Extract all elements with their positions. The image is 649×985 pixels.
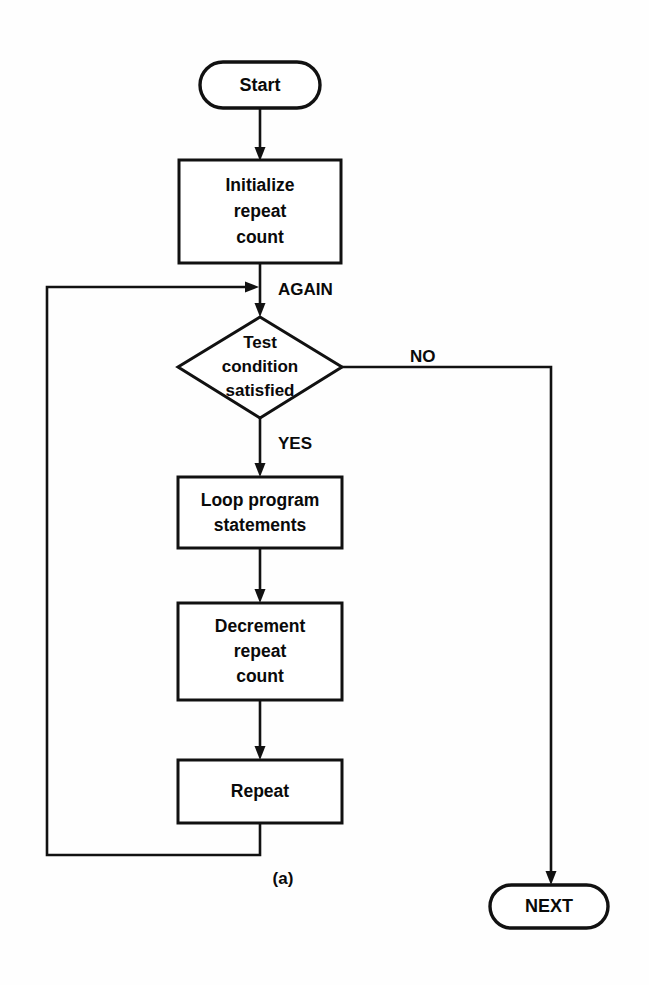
edge-decrement-to-repeat xyxy=(255,700,266,760)
figure-caption: (a) xyxy=(273,869,294,888)
decrement-label-line-3: count xyxy=(236,666,284,686)
node-repeat[interactable]: Repeat xyxy=(178,760,342,823)
node-next[interactable]: NEXT xyxy=(490,885,608,928)
node-test-condition[interactable]: Test condition satisfied xyxy=(178,317,342,418)
repeat-label: Repeat xyxy=(231,781,290,801)
test-label-line-3: satisfied xyxy=(226,381,295,400)
node-initialize[interactable]: Initialize repeat count xyxy=(179,160,341,263)
edge-initialize-to-test xyxy=(255,263,266,317)
loop-program-label-line-2: statements xyxy=(214,515,307,535)
initialize-label-line-1: Initialize xyxy=(225,175,294,195)
decrement-label-line-2: repeat xyxy=(234,641,287,661)
decrement-label-line-1: Decrement xyxy=(215,616,306,636)
node-start[interactable]: Start xyxy=(200,62,320,108)
node-decrement[interactable]: Decrement repeat count xyxy=(178,603,342,700)
start-label: Start xyxy=(239,75,280,95)
flowchart-figure: Start Initialize repeat count AGAIN Test… xyxy=(0,0,649,985)
flowchart-canvas: Start Initialize repeat count AGAIN Test… xyxy=(0,0,649,985)
next-label: NEXT xyxy=(525,896,573,916)
loop-program-label-line-1: Loop program xyxy=(201,490,320,510)
loop-program-box-shape xyxy=(178,477,342,548)
test-label-line-2: condition xyxy=(222,357,298,376)
edge-test-no-to-next xyxy=(342,367,557,885)
edge-start-to-initialize xyxy=(255,108,266,161)
edge-test-yes-to-loop xyxy=(255,418,266,477)
edge-label-no: NO xyxy=(410,347,436,366)
edge-loop-to-decrement xyxy=(255,548,266,603)
initialize-label-line-2: repeat xyxy=(234,201,287,221)
initialize-label-line-3: count xyxy=(236,227,284,247)
edge-label-yes: YES xyxy=(278,434,312,453)
edge-label-again: AGAIN xyxy=(278,280,333,299)
node-loop-program[interactable]: Loop program statements xyxy=(178,477,342,548)
test-label-line-1: Test xyxy=(243,333,277,352)
